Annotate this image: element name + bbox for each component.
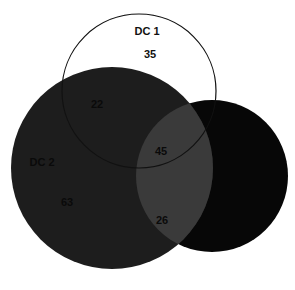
venn-svg: DC 1 35 22 45 DC 2 63 26 [0, 0, 295, 290]
dc2-label: DC 2 [29, 156, 54, 168]
venn-diagram: DC 1 35 22 45 DC 2 63 26 [0, 0, 295, 290]
value-dc1-dc2: 22 [91, 98, 103, 110]
value-dc2-set3: 26 [156, 214, 168, 226]
value-dc2-only: 63 [61, 196, 73, 208]
value-dc1-only: 35 [144, 48, 156, 60]
dc1-label: DC 1 [134, 25, 159, 37]
value-all-three: 45 [155, 145, 167, 157]
